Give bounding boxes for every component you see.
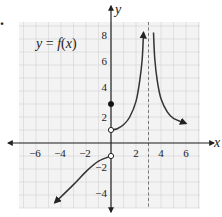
filled-point bbox=[108, 101, 113, 106]
open-point bbox=[108, 153, 113, 158]
function-label: y = f(x) bbox=[34, 36, 77, 52]
x-tick-label: 6 bbox=[183, 147, 189, 159]
y-tick-label: −4 bbox=[95, 187, 107, 199]
open-point bbox=[108, 127, 113, 132]
y-tick-label: 2 bbox=[102, 111, 108, 123]
y-tick-label: 6 bbox=[102, 55, 108, 67]
problem-marker: . bbox=[0, 11, 4, 28]
x-tick-label: 2 bbox=[133, 147, 139, 159]
x-tick-label: 4 bbox=[158, 147, 164, 159]
y-tick-label: 4 bbox=[102, 81, 108, 93]
y-tick-label: 8 bbox=[102, 29, 108, 41]
y-axis-label: y bbox=[113, 2, 122, 17]
x-axis-label: x bbox=[213, 135, 221, 150]
x-tick-label: −4 bbox=[54, 147, 66, 159]
x-tick-label: −6 bbox=[29, 147, 41, 159]
function-graph: . x y −6 −4 −2 2 4 6 8 6 4 2 −2 −4 y = f… bbox=[0, 0, 222, 217]
x-tick-label: −2 bbox=[79, 147, 91, 159]
